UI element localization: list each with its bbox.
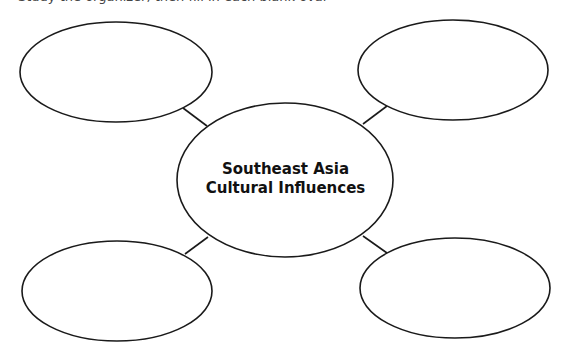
connector-top-right (363, 106, 387, 124)
connector-bottom-left (185, 237, 208, 254)
blank-oval-bottom-right (360, 238, 550, 338)
center-title-line1: Southeast Asia (177, 160, 394, 179)
center-title-line2: Cultural Influences (177, 179, 394, 198)
connector-bottom-right (363, 236, 387, 253)
blank-oval-top-left (20, 22, 212, 122)
blank-oval-bottom-left (22, 241, 212, 341)
blank-oval-top-right (358, 20, 548, 120)
connector-top-left (183, 108, 207, 126)
